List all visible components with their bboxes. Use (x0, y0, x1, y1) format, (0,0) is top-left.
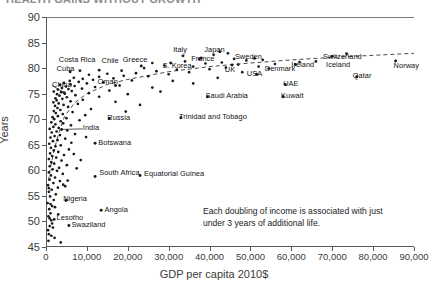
data-point (237, 63, 240, 66)
data-point (64, 137, 67, 140)
data-point (69, 100, 72, 103)
data-point (51, 222, 54, 225)
data-point (84, 114, 87, 117)
data-point (47, 184, 50, 187)
data-point (216, 76, 219, 79)
data-point (94, 175, 97, 178)
data-point (135, 72, 138, 75)
country-label: Costa Rica (59, 56, 96, 64)
data-point (106, 72, 109, 75)
country-label: Qatar (353, 72, 372, 80)
x-tick-label: 60,000 (277, 251, 306, 262)
data-point (85, 136, 88, 139)
data-point (60, 128, 63, 131)
data-point (220, 61, 223, 64)
data-point (48, 128, 51, 131)
data-point (77, 103, 80, 106)
data-point (58, 166, 61, 169)
country-label: USA (247, 70, 262, 78)
data-point (57, 127, 60, 130)
data-point (49, 212, 52, 215)
chart-title: HEALTH GAINS WITHOUT GROWTH (6, 0, 201, 5)
data-point (227, 52, 230, 55)
data-point (49, 136, 52, 139)
country-label: UK (225, 66, 235, 74)
data-point (66, 129, 69, 132)
data-point (90, 108, 93, 111)
data-point (88, 73, 91, 76)
y-tick-label: 80 (28, 62, 40, 74)
x-tick-label: 30,000 (154, 251, 183, 262)
y-tick-label: 90 (28, 11, 40, 23)
data-point (52, 226, 55, 229)
country-label: Trinidad and Tobago (179, 113, 247, 121)
data-point (98, 95, 101, 98)
country-label: Equatorial Guinea (144, 170, 204, 178)
data-point (48, 158, 51, 161)
data-point (54, 145, 57, 148)
data-point (53, 162, 56, 165)
data-point (48, 142, 51, 145)
x-tick-label: 90,000 (399, 251, 428, 262)
country-label: Saudi Arabia (206, 92, 249, 100)
y-tick-label: 85 (28, 37, 40, 49)
data-point (66, 96, 69, 99)
country-label: Japan (204, 46, 224, 54)
data-point (56, 139, 59, 142)
chart-title-cropped: HEALTH GAINS WITHOUT GROWTH (0, 0, 427, 9)
data-point (55, 130, 58, 133)
country-label: South Africa (99, 169, 139, 177)
data-point (48, 217, 51, 220)
data-point (155, 70, 158, 73)
data-point (51, 116, 54, 119)
data-point (56, 93, 59, 96)
data-point (167, 73, 170, 76)
data-point (54, 112, 57, 115)
y-tick-label: 65 (28, 139, 40, 151)
data-point (51, 155, 54, 158)
y-tick-label: 50 (28, 215, 40, 227)
data-point (70, 124, 73, 127)
x-tick-label: 20,000 (113, 251, 142, 262)
data-point (52, 90, 55, 93)
data-point (79, 159, 82, 162)
data-point (159, 90, 162, 93)
data-point (54, 206, 57, 209)
data-point (52, 199, 55, 202)
data-point (92, 79, 95, 82)
data-point (139, 104, 142, 107)
data-point (53, 135, 56, 138)
country-label: Italy (173, 46, 187, 54)
data-point (126, 93, 129, 96)
data-point (78, 119, 81, 122)
data-point (59, 144, 62, 147)
data-point (131, 79, 134, 82)
data-point (58, 94, 61, 97)
data-point (47, 240, 50, 243)
data-point (182, 54, 185, 57)
data-point (78, 69, 81, 72)
data-point (74, 94, 77, 97)
y-axis-title: Years (0, 116, 10, 144)
data-point (49, 195, 52, 198)
y-tick-label: 75 (28, 88, 40, 100)
data-point (52, 110, 55, 113)
data-point (241, 71, 244, 74)
data-point (54, 193, 57, 196)
data-point (48, 208, 51, 211)
data-point (86, 82, 89, 85)
country-label: Russia (107, 114, 130, 122)
data-point (68, 148, 71, 151)
data-point (108, 89, 111, 92)
country-label: Norway (394, 62, 419, 70)
data-point (56, 169, 59, 172)
country-label: UAE (283, 80, 298, 88)
data-point (67, 106, 70, 109)
data-point (53, 218, 56, 221)
data-point (71, 111, 74, 114)
data-point (59, 180, 62, 183)
data-point (73, 85, 76, 88)
data-point (72, 76, 75, 79)
data-point (66, 164, 69, 167)
data-point (49, 203, 52, 206)
